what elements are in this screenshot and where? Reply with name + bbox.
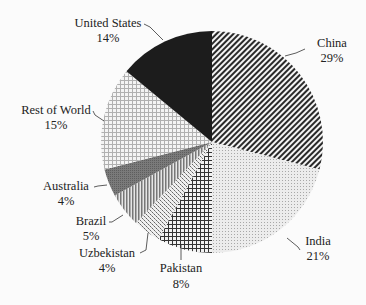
leader-row [93, 111, 104, 121]
label-china-name: China [317, 36, 347, 50]
leader-us [144, 24, 163, 40]
leader-brazil [109, 215, 123, 222]
label-pakistan-name: Pakistan [160, 261, 203, 275]
label-uzbekistan-name: Uzbekistan [79, 246, 136, 260]
label-uzbekistan-pct: 4% [99, 261, 116, 275]
label-india-name: India [305, 234, 331, 248]
label-brazil-name: Brazil [76, 214, 107, 228]
label-us-name: United States [74, 16, 141, 30]
label-pakistan-pct: 8% [173, 277, 190, 291]
pie-slices [101, 31, 323, 253]
label-china-pct: 29% [321, 51, 344, 65]
label-us-pct: 14% [97, 31, 120, 45]
leader-india [287, 238, 300, 250]
label-brazil-pct: 5% [83, 229, 100, 243]
leader-china [285, 49, 305, 56]
leader-australia [94, 185, 107, 187]
label-row-pct: 15% [45, 118, 68, 132]
label-row-name: Rest of World [21, 103, 91, 117]
label-india-pct: 21% [307, 249, 330, 263]
pie-chart: China 29% India 21% Pakistan 8% Uzbekist… [0, 0, 366, 305]
label-australia-pct: 4% [58, 194, 75, 208]
leader-uzbekistan [140, 233, 148, 253]
label-australia-name: Australia [43, 179, 89, 193]
